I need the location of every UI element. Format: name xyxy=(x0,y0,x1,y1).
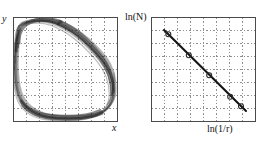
panel-boxcount: ln(N) ln(1/r) xyxy=(151,17,256,122)
attractor-trajectories xyxy=(13,17,118,122)
boxcount-x-axis-label: ln(1/r) xyxy=(207,124,233,134)
panel-attractor: y x xyxy=(13,17,118,122)
boxcount-y-axis-label: ln(N) xyxy=(125,12,147,22)
best-fit-line xyxy=(164,30,246,111)
attractor-y-axis-label: y xyxy=(2,14,6,24)
boxcount-series xyxy=(151,17,256,122)
attractor-x-axis-label: x xyxy=(112,123,116,133)
figure-root: y x xyxy=(0,0,265,152)
